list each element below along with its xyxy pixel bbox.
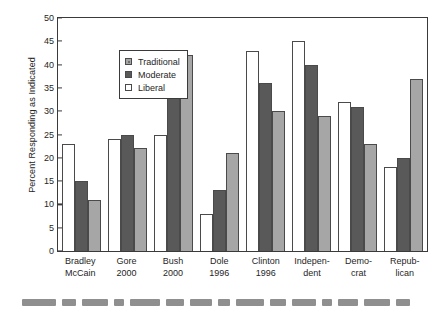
bar-moderate [397, 158, 410, 251]
y-tick-label: 15 [44, 176, 58, 186]
caption-text-block [190, 299, 212, 306]
bar-liberal [246, 51, 259, 251]
bar-liberal [338, 102, 351, 251]
caption-text-block [130, 299, 160, 306]
caption-text-block [322, 299, 332, 306]
bar-moderate [75, 181, 88, 251]
x-axis-label: Gore2000 [103, 256, 149, 279]
x-axis-label-line: Repub- [382, 256, 428, 268]
legend-label: Liberal [138, 83, 165, 93]
x-axis-label-line: lican [382, 268, 428, 280]
caption-text-block [114, 299, 124, 306]
bar-traditional [410, 79, 423, 251]
legend-swatch-moderate [125, 71, 132, 78]
caption-text-block [218, 299, 230, 306]
chart-legend: TraditionalModerateLiberal [119, 50, 188, 99]
y-tick-label: 30 [44, 106, 58, 116]
bar-group [335, 18, 381, 251]
bar-moderate [121, 135, 134, 252]
y-axis-title: Percent Responding as Indicated [27, 25, 37, 225]
x-axis-label-line: 1996 [196, 268, 242, 280]
bar-chart-figure: Percent Responding as Indicated 05101520… [0, 0, 438, 316]
bar-liberal [292, 41, 305, 251]
bar-traditional [272, 111, 285, 251]
x-axis-label: Bush2000 [150, 256, 196, 279]
x-axis-label: Dole1996 [196, 256, 242, 279]
x-axis-label: BradleyMcCain [57, 256, 103, 279]
legend-item: Liberal [125, 81, 180, 94]
bar-traditional [88, 200, 101, 251]
legend-label: Moderate [138, 70, 176, 80]
x-axis-label: Indepen-dent [289, 256, 335, 279]
y-tick-label: 5 [49, 223, 58, 233]
caption-text-block [22, 299, 56, 306]
x-axis-label-line: Demo- [335, 256, 381, 268]
caption-text-block [82, 299, 108, 306]
x-axis-label-line: Indepen- [289, 256, 335, 268]
x-axis-label-line: 1996 [243, 268, 289, 280]
x-axis-label-line: 2000 [150, 268, 196, 280]
bar-moderate [351, 107, 364, 251]
caption-text-block [62, 299, 76, 306]
caption-text-block [364, 299, 390, 306]
x-axis-label-line: dent [289, 268, 335, 280]
legend-item: Traditional [125, 55, 180, 68]
bar-traditional [226, 153, 239, 251]
bar-liberal [62, 144, 75, 251]
caption-text-block [292, 299, 316, 306]
y-tick-label: 20 [44, 153, 58, 163]
x-axis-label-line: McCain [57, 268, 103, 280]
x-axis-labels: BradleyMcCainGore2000Bush2000Dole1996Cli… [57, 256, 428, 279]
y-tick-label: 40 [44, 60, 58, 70]
y-tick-label: 25 [44, 130, 58, 140]
bar-groups-container [58, 18, 427, 251]
x-axis-label: Clinton1996 [243, 256, 289, 279]
y-tick-label: 45 [44, 36, 58, 46]
caption-text-block [396, 299, 410, 306]
bar-traditional [318, 116, 331, 251]
bar-moderate [305, 65, 318, 251]
bar-group [289, 18, 335, 251]
bar-moderate [213, 190, 226, 251]
bar-liberal [200, 214, 213, 251]
bar-group [243, 18, 289, 251]
bar-traditional [134, 148, 147, 251]
bar-group [381, 18, 427, 251]
y-tick-label: 35 [44, 83, 58, 93]
x-axis-label-line: 2000 [103, 268, 149, 280]
y-tick-label: 10 [44, 199, 58, 209]
x-axis-label-line: crat [335, 268, 381, 280]
x-axis-label: Demo-crat [335, 256, 381, 279]
legend-item: Moderate [125, 68, 180, 81]
x-axis-label-line: Bush [150, 256, 196, 268]
legend-label: Traditional [138, 57, 180, 67]
caption-text-block [166, 299, 184, 306]
y-tick-label: 0 [49, 246, 58, 256]
bar-group [58, 18, 104, 251]
bar-moderate [259, 83, 272, 251]
plot-area: 05101520253035404550 TraditionalModerate… [57, 17, 428, 252]
caption-strip [22, 296, 422, 309]
x-axis-label-line: Dole [196, 256, 242, 268]
bar-liberal [108, 139, 121, 251]
caption-text-block [270, 299, 286, 306]
bar-liberal [384, 167, 397, 251]
x-axis-label-line: Gore [103, 256, 149, 268]
bar-moderate [167, 83, 180, 251]
bar-group [196, 18, 242, 251]
bar-traditional [364, 144, 377, 251]
x-axis-label-line: Bradley [57, 256, 103, 268]
caption-text-block [236, 299, 264, 306]
legend-swatch-traditional [125, 58, 132, 65]
legend-swatch-liberal [125, 84, 132, 91]
x-axis-label-line: Clinton [243, 256, 289, 268]
y-tick-label: 50 [44, 13, 58, 23]
caption-text-block [338, 299, 358, 306]
x-axis-label: Repub-lican [382, 256, 428, 279]
bar-liberal [154, 135, 167, 252]
